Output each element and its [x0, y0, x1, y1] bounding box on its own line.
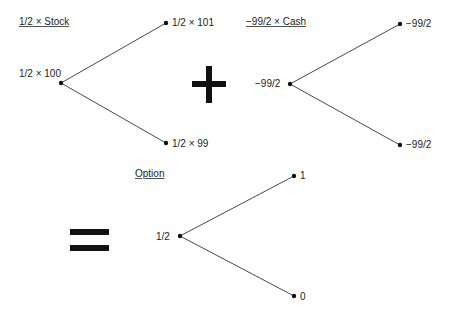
- stock-down-label: 1/2 × 99: [172, 138, 208, 150]
- stock-root-label: 1/2 × 100: [19, 68, 61, 80]
- option-root-label: 1/2: [156, 231, 170, 243]
- option-up-label: 1: [300, 170, 306, 182]
- cash-down-label: −99/2: [406, 139, 431, 151]
- node-option-root: [178, 234, 182, 238]
- node-cash-down: [398, 143, 402, 147]
- node-stock-up: [164, 21, 168, 25]
- stock-up-label: 1/2 × 101: [172, 17, 214, 29]
- node-stock-root: [59, 81, 63, 85]
- option-down-label: 0: [300, 291, 306, 303]
- node-option-down: [292, 294, 296, 298]
- node-option-up: [292, 174, 296, 178]
- option-tree-title: Option: [135, 168, 164, 180]
- stock-tree-title: 1/2 × Stock: [19, 16, 69, 28]
- node-cash-root: [288, 82, 292, 86]
- cash-tree-title: −99/2 × Cash: [246, 16, 306, 28]
- tree-edges: [0, 0, 452, 319]
- node-stock-down: [164, 141, 168, 145]
- cash-up-label: −99/2: [406, 18, 431, 30]
- node-cash-up: [398, 22, 402, 26]
- cash-root-label: −99/2: [255, 78, 280, 90]
